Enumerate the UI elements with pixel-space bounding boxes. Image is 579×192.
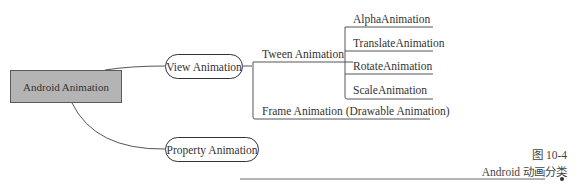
root-node-android-animation: Android Animation [10, 70, 122, 103]
node-alpha-animation: AlphaAnimation [353, 13, 430, 25]
node-rotate-animation: RotateAnimation [353, 60, 432, 72]
branch-view-animation: View Animation [165, 54, 243, 79]
root-node-label: Android Animation [23, 81, 109, 93]
node-translate-animation: TranslateAnimation [353, 37, 445, 49]
figure-title: Android 动画分类 [482, 163, 567, 179]
branch-property-animation: Property Animation [165, 137, 259, 162]
branch-property-label: Property Animation [166, 144, 257, 156]
figure-number: 图 10-4 [532, 146, 567, 162]
node-scale-animation: ScaleAnimation [353, 84, 427, 96]
node-tween-animation: Tween Animation [262, 48, 344, 60]
branch-view-label: View Animation [166, 61, 242, 73]
node-frame-animation: Frame Animation (Drawable Animation) [262, 105, 449, 117]
